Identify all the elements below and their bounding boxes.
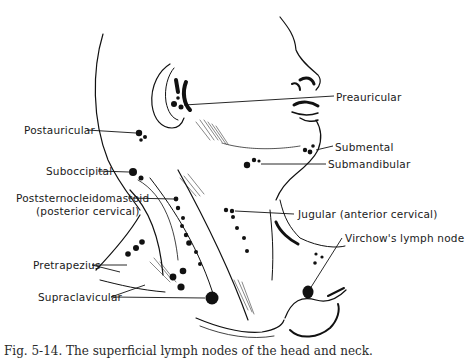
leader-jugular — [235, 211, 294, 214]
scm-muscle-back — [150, 178, 215, 300]
label-poststernocleidomastoid-line1: Poststernocleidomastoid — [16, 192, 149, 204]
label-supraclavicular: Supraclavicular — [38, 291, 122, 303]
figure-caption: Fig. 5-14. The superficial lymph nodes o… — [4, 344, 373, 358]
label-pretrapezius: Pretrapezius — [33, 259, 101, 271]
label-submandibular: Submandibular — [328, 158, 410, 170]
clavicle-outline — [196, 318, 284, 332]
label-preauricular: Preauricular — [336, 91, 402, 103]
label-poststernocleidomastoid-line2: (posterior cervical) — [36, 205, 139, 217]
label-jugular: Jugular (anterior cervical) — [298, 208, 437, 220]
label-virchow: Virchow's lymph node — [345, 232, 464, 244]
ear-outline — [152, 64, 184, 128]
label-submental: Submental — [335, 141, 394, 153]
label-suboccipital: Suboccipital — [46, 165, 112, 177]
head-outline — [95, 34, 140, 210]
label-postauricular: Postauricular — [24, 124, 95, 136]
trapezius-outline — [96, 215, 140, 270]
chin-outline — [276, 120, 321, 200]
leader-supraclavicular-2 — [111, 297, 205, 298]
lymph-nodes — [125, 96, 323, 304]
